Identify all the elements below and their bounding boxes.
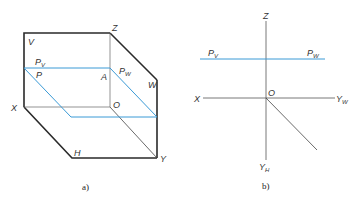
label-pv-a: PV	[35, 57, 46, 68]
label-a: A	[100, 72, 107, 82]
panel-b: Z PV PW X O YW YH b)	[193, 11, 349, 191]
label-y-a: Y	[160, 154, 167, 164]
label-p: P	[36, 70, 42, 80]
projection-diagram: V Z PV P A PW W X O H Y a) Z PV PW X O Y…	[0, 0, 354, 207]
label-x-a: X	[10, 103, 18, 113]
w-plane-top-edge	[110, 33, 157, 80]
h-plane-edge	[24, 107, 157, 158]
label-pw-a: PW	[119, 66, 132, 77]
label-h: H	[74, 148, 81, 158]
label-v: V	[28, 37, 35, 47]
label-z: Z	[111, 23, 118, 33]
label-yh: YH	[259, 162, 270, 173]
oy-axis	[110, 107, 157, 158]
label-pw-b: PW	[307, 48, 320, 59]
label-x-b: X	[193, 94, 201, 104]
label-o-b: O	[268, 88, 275, 98]
label-yw: YW	[336, 94, 349, 105]
label-z-b: Z	[262, 11, 269, 21]
plane-p	[24, 68, 157, 117]
label-o-a: O	[113, 100, 120, 110]
label-pv-b: PV	[208, 48, 219, 59]
caption-b: b)	[262, 181, 270, 191]
diagonal-45	[266, 98, 317, 150]
panel-a: V Z PV P A PW W X O H Y a)	[10, 23, 167, 192]
caption-a: a)	[82, 182, 89, 192]
